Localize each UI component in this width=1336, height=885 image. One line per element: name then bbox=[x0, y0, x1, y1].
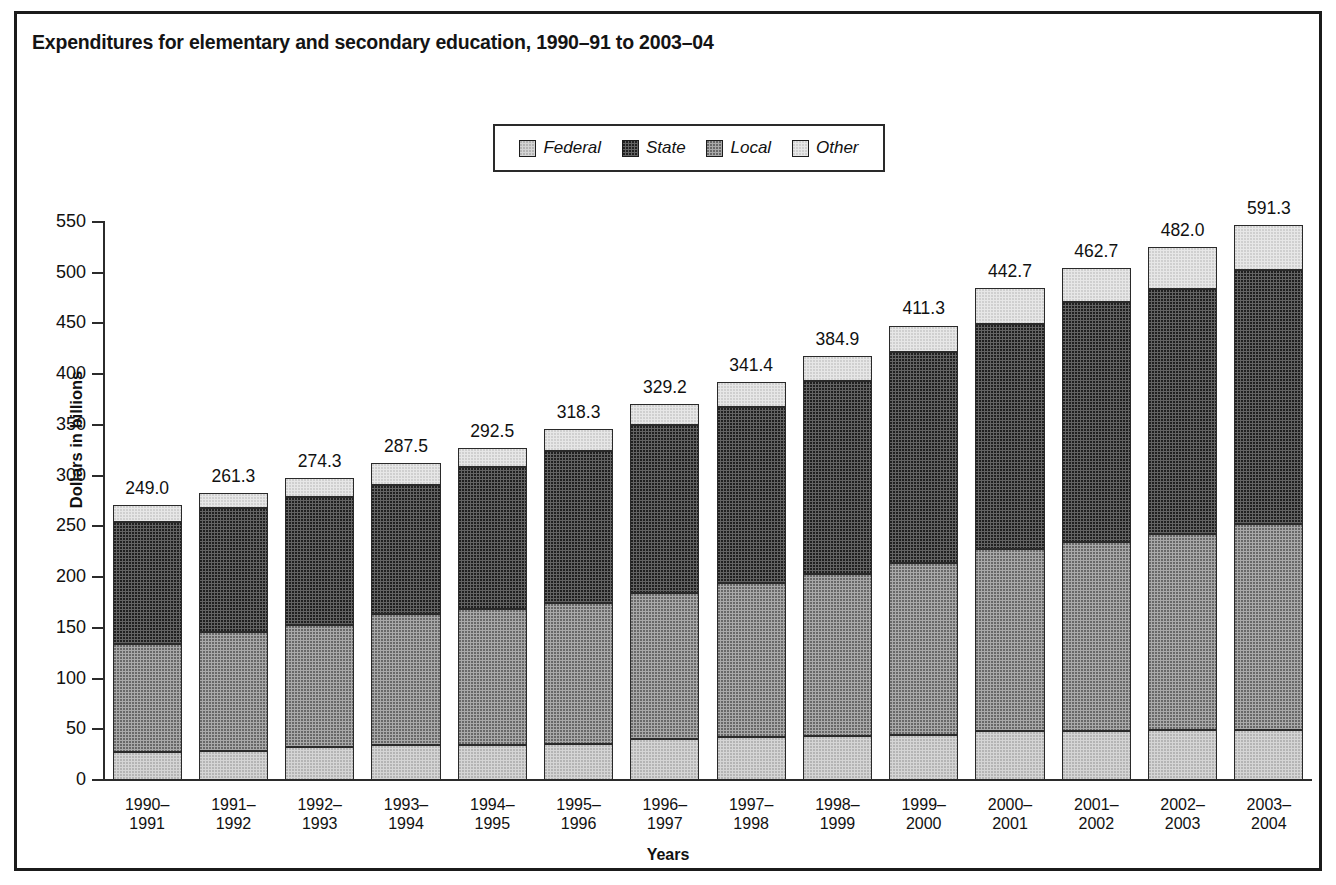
bar-segment-other[interactable] bbox=[803, 356, 872, 381]
x-axis-label-line: 2004 bbox=[1247, 814, 1292, 833]
bar-stack bbox=[458, 222, 527, 780]
bar-total-label: 261.3 bbox=[212, 466, 256, 487]
bar-segment-state[interactable] bbox=[113, 522, 182, 644]
x-axis-tick-label: 1993–1994 bbox=[384, 795, 429, 833]
bar-segment-other[interactable] bbox=[630, 404, 699, 426]
bar-group[interactable]: 442.7 bbox=[975, 222, 1044, 780]
bar-segment-local[interactable] bbox=[544, 603, 613, 744]
bar-segment-federal[interactable] bbox=[458, 745, 527, 781]
bar-group[interactable]: 341.4 bbox=[717, 222, 786, 780]
bar-segment-local[interactable] bbox=[630, 593, 699, 739]
bar-segment-federal[interactable] bbox=[889, 735, 958, 780]
bar-group[interactable]: 482.0 bbox=[1148, 222, 1217, 780]
bar-segment-state[interactable] bbox=[371, 485, 440, 614]
x-axis-label-line: 1992 bbox=[211, 814, 256, 833]
bar-segment-other[interactable] bbox=[113, 505, 182, 522]
x-axis-label-line: 1994– bbox=[470, 795, 515, 814]
bar-segment-other[interactable] bbox=[717, 382, 786, 406]
bar-total-label: 287.5 bbox=[384, 436, 428, 457]
bar-segment-state[interactable] bbox=[889, 352, 958, 563]
x-axis-tick-label: 1992–1993 bbox=[297, 795, 342, 833]
bar-segment-local[interactable] bbox=[889, 563, 958, 734]
y-axis-tick bbox=[92, 272, 104, 274]
x-axis-label-line: 1993 bbox=[297, 814, 342, 833]
x-axis-label-line: 2001– bbox=[1074, 795, 1119, 814]
x-axis-title: Years bbox=[0, 846, 1336, 864]
bar-group[interactable]: 292.5 bbox=[458, 222, 527, 780]
bar-segment-local[interactable] bbox=[803, 574, 872, 736]
bar-segment-other[interactable] bbox=[975, 288, 1044, 324]
bar-segment-local[interactable] bbox=[199, 632, 268, 751]
bar-segment-state[interactable] bbox=[544, 451, 613, 603]
x-axis-label-line: 2000– bbox=[988, 795, 1033, 814]
bar-stack bbox=[113, 222, 182, 780]
bar-stack bbox=[285, 222, 354, 780]
bar-segment-federal[interactable] bbox=[975, 731, 1044, 780]
bar-group[interactable]: 249.0 bbox=[113, 222, 182, 780]
bar-total-label: 274.3 bbox=[298, 451, 342, 472]
state-swatch-icon bbox=[622, 140, 639, 157]
y-axis-tick-label: 0 bbox=[42, 769, 86, 790]
bar-segment-state[interactable] bbox=[1062, 302, 1131, 542]
bar-segment-local[interactable] bbox=[1234, 524, 1303, 729]
bar-segment-local[interactable] bbox=[1148, 534, 1217, 730]
bar-segment-federal[interactable] bbox=[1148, 730, 1217, 780]
bar-total-label: 442.7 bbox=[988, 261, 1032, 282]
bar-segment-other[interactable] bbox=[544, 429, 613, 451]
bar-segment-federal[interactable] bbox=[113, 752, 182, 780]
bar-segment-federal[interactable] bbox=[1234, 730, 1303, 780]
bar-segment-other[interactable] bbox=[285, 478, 354, 497]
bar-segment-state[interactable] bbox=[1234, 270, 1303, 525]
bar-segment-local[interactable] bbox=[717, 583, 786, 738]
y-axis-tick bbox=[92, 779, 104, 781]
bar-group[interactable]: 261.3 bbox=[199, 222, 268, 780]
bar-segment-state[interactable] bbox=[975, 324, 1044, 548]
bar-segment-state[interactable] bbox=[1148, 289, 1217, 534]
bar-segment-other[interactable] bbox=[371, 463, 440, 485]
bar-segment-other[interactable] bbox=[1062, 268, 1131, 302]
legend-label-state: State bbox=[646, 138, 686, 158]
bar-segment-state[interactable] bbox=[717, 407, 786, 583]
bar-segment-state[interactable] bbox=[458, 467, 527, 610]
bar-group[interactable]: 329.2 bbox=[630, 222, 699, 780]
bar-segment-federal[interactable] bbox=[199, 751, 268, 780]
bar-segment-local[interactable] bbox=[371, 614, 440, 745]
bar-segment-state[interactable] bbox=[285, 497, 354, 625]
bar-segment-other[interactable] bbox=[458, 448, 527, 467]
chart-figure: Expenditures for elementary and secondar… bbox=[0, 0, 1336, 885]
bar-segment-federal[interactable] bbox=[544, 744, 613, 780]
bar-group[interactable]: 384.9 bbox=[803, 222, 872, 780]
bar-segment-local[interactable] bbox=[458, 609, 527, 744]
bar-segment-federal[interactable] bbox=[803, 736, 872, 780]
bar-segment-federal[interactable] bbox=[371, 745, 440, 780]
bar-segment-local[interactable] bbox=[285, 625, 354, 747]
bar-segment-state[interactable] bbox=[199, 508, 268, 632]
bar-segment-other[interactable] bbox=[1234, 225, 1303, 270]
x-axis-label-line: 1999– bbox=[901, 795, 946, 814]
bar-segment-federal[interactable] bbox=[1062, 731, 1131, 780]
bar-segment-other[interactable] bbox=[199, 493, 268, 508]
bar-segment-local[interactable] bbox=[1062, 542, 1131, 731]
bar-segment-other[interactable] bbox=[1148, 247, 1217, 289]
y-axis-tick bbox=[92, 678, 104, 680]
bar-segment-local[interactable] bbox=[113, 644, 182, 752]
bar-group[interactable]: 462.7 bbox=[1062, 222, 1131, 780]
bar-segment-state[interactable] bbox=[630, 425, 699, 593]
plot-area: 249.0261.3274.3287.5292.5318.3329.2341.4… bbox=[104, 222, 1312, 780]
bar-segment-federal[interactable] bbox=[717, 737, 786, 780]
bar-segment-local[interactable] bbox=[975, 549, 1044, 732]
x-axis-label-line: 1995 bbox=[470, 814, 515, 833]
bar-group[interactable]: 318.3 bbox=[544, 222, 613, 780]
bar-segment-federal[interactable] bbox=[630, 739, 699, 780]
bar-group[interactable]: 287.5 bbox=[371, 222, 440, 780]
bar-group[interactable]: 274.3 bbox=[285, 222, 354, 780]
bar-segment-state[interactable] bbox=[803, 381, 872, 574]
bar-group[interactable]: 411.3 bbox=[889, 222, 958, 780]
y-axis-tick bbox=[92, 576, 104, 578]
bar-segment-other[interactable] bbox=[889, 326, 958, 353]
bar-total-label: 591.3 bbox=[1247, 198, 1291, 219]
x-axis-tick-label: 1998–1999 bbox=[815, 795, 860, 833]
bar-group[interactable]: 591.3 bbox=[1234, 222, 1303, 780]
bar-segment-federal[interactable] bbox=[285, 747, 354, 780]
bar-stack bbox=[975, 222, 1044, 780]
